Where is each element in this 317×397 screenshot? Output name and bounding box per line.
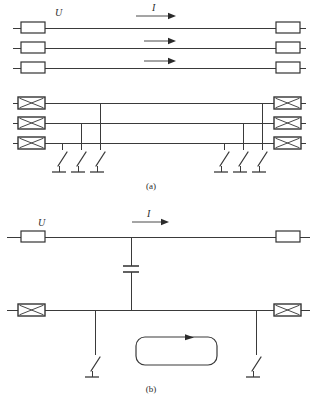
panel-a-lower-section: (a) <box>13 97 306 191</box>
left-crossed-box-1 <box>18 97 45 109</box>
current-loop-outline <box>136 337 217 365</box>
right-terminal-box-2 <box>276 42 300 53</box>
panel-b-right-crossed-box <box>274 304 301 316</box>
current-arrow-lower <box>144 58 176 64</box>
panel-b-earthing-switch-left[interactable] <box>85 310 100 377</box>
earthing-switch-right-1[interactable] <box>214 152 229 172</box>
earthing-switch-right-2[interactable] <box>233 152 248 172</box>
panel-b-earthing-switch-right[interactable] <box>246 310 261 377</box>
panel-b-left-crossed-box <box>18 304 45 316</box>
earthing-switch-left-3[interactable] <box>90 152 105 172</box>
right-terminal-box-1 <box>276 22 300 33</box>
current-loop-arrow-icon <box>185 334 194 340</box>
panel-b-section: U I (b) <box>7 208 310 394</box>
figure-root: U I <box>0 0 317 397</box>
current-arrow-panel-b <box>132 219 169 225</box>
left-terminal-box-1 <box>21 22 45 33</box>
current-loop <box>136 334 217 365</box>
earthing-switch-left-1[interactable] <box>52 152 67 172</box>
current-label-a: I <box>151 2 156 13</box>
left-crossed-box-3 <box>18 137 45 149</box>
left-terminal-box-2 <box>21 42 45 53</box>
caption-panel-a: (a) <box>146 181 156 191</box>
right-crossed-box-2 <box>274 117 301 129</box>
circuit-diagram: U I <box>0 0 317 397</box>
current-arrow-middle <box>144 38 176 44</box>
caption-panel-b: (b) <box>146 384 157 394</box>
capacitor-branch <box>123 237 139 310</box>
left-crossed-box-2 <box>18 117 45 129</box>
voltage-label-a: U <box>55 7 63 18</box>
right-crossed-box-3 <box>274 137 301 149</box>
right-crossed-box-1 <box>274 97 301 109</box>
earthing-switch-right-3[interactable] <box>252 152 267 172</box>
earthing-switch-left-2[interactable] <box>71 152 86 172</box>
panel-a-upper-section: U I <box>13 2 306 73</box>
panel-b-left-terminal-box <box>21 231 45 242</box>
current-label-b: I <box>146 208 151 219</box>
left-terminal-box-3 <box>21 62 45 73</box>
current-arrow-top <box>136 13 176 19</box>
right-terminal-box-3 <box>276 62 300 73</box>
voltage-label-b: U <box>38 217 46 228</box>
panel-b-right-terminal-box <box>276 231 300 242</box>
